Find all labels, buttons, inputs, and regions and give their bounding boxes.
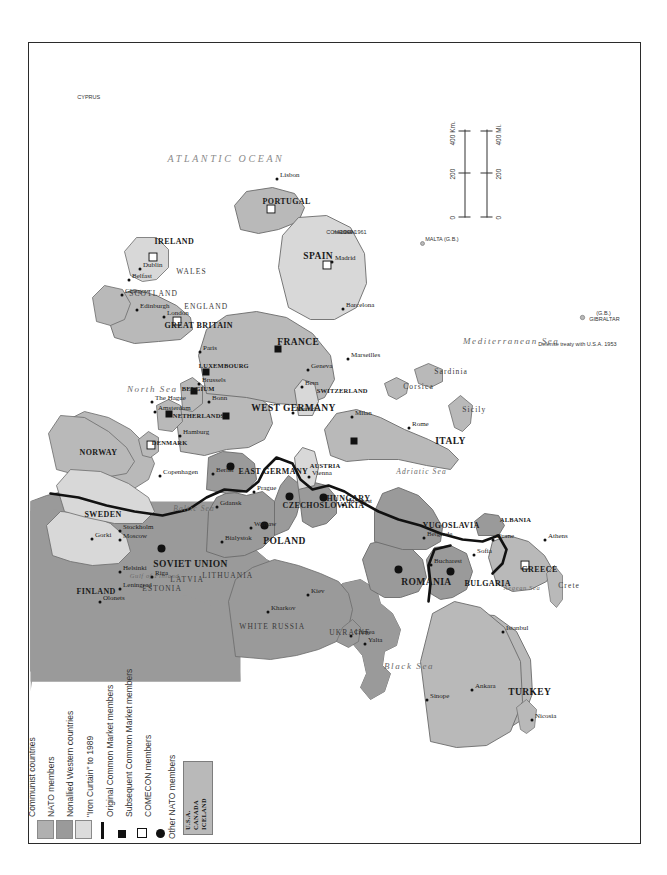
city-dot-gdansk — [216, 506, 219, 509]
city-label-athens: Athens — [548, 533, 568, 540]
country-label-great-britain: GREAT BRITAIN — [165, 322, 234, 330]
city-dot-bucharest — [430, 564, 433, 567]
country-label-albania: ALBANIA — [500, 517, 531, 524]
sea-label-sicily: Sicily — [462, 406, 486, 414]
city-dot-yalta — [364, 643, 367, 646]
city-label-glasgow: Glasgow — [125, 288, 150, 295]
city-label-berlin: Berlin — [216, 467, 234, 474]
sea-label-crete: Crete — [558, 582, 580, 590]
city-dot-dublin — [139, 268, 142, 271]
comecon-dot-romania — [395, 566, 403, 574]
city-label-warsaw: Warsaw — [254, 521, 276, 528]
city-label-nicosia: Nicosia — [535, 713, 556, 720]
country-label-lithuania: LITHUANIA — [202, 572, 253, 580]
city-label-leningrad: Leningrad — [123, 582, 152, 589]
city-label-sofia: Sofia — [477, 548, 492, 555]
city-dot-edinburgh — [136, 309, 139, 312]
annotation-1949-1961: 1949-1961 — [340, 230, 366, 236]
annotation-gibraltar: GIBRALTAR — [589, 317, 619, 323]
scale-tick-km-200: 200 — [449, 169, 456, 180]
scale-label-mi: 400 Mi. — [495, 124, 502, 145]
city-label-the-hague: The Hague — [155, 395, 186, 402]
city-label-crimea: Crimea — [354, 629, 375, 636]
country-label-france: FRANCE — [277, 338, 319, 348]
city-label-olonets: Olonets — [103, 595, 125, 602]
legend-label-comecon: COMECON members — [143, 735, 153, 817]
legend-label-communist: Communist countries — [28, 737, 37, 817]
legend-label-nato: NATO members — [46, 756, 56, 817]
city-label-london: London — [167, 310, 189, 317]
city-label-bialystok: Bialystok — [225, 535, 252, 542]
city-label-edinburgh: Edinburgh — [140, 303, 169, 310]
scale-label-km: 400 Km. — [449, 121, 456, 145]
legend-label-subsequent-common-market: Subsequent Common Market members — [124, 669, 134, 817]
city-label-copenhagen: Copenhagen — [163, 469, 198, 476]
city-label-istanbul: Istanbul — [506, 625, 529, 632]
map-frame: 0 200 400 Km. 0 200 400 Mi. ATLANTIC OCE… — [28, 42, 641, 844]
city-dot-prague — [253, 491, 256, 494]
annotation-cyprus: CYPRUS — [77, 95, 100, 101]
city-label-barcelona: Barcelona — [346, 302, 374, 309]
city-label-amsterdam: Amsterdam — [158, 405, 191, 412]
sea-label-corsica: Corsica — [403, 383, 434, 391]
country-label-east-germany: EAST GERMANY — [239, 468, 309, 476]
country-label-norway: NORWAY — [80, 449, 118, 457]
city-label-kiev: Kiev — [311, 588, 325, 595]
city-dot-paris — [199, 351, 202, 354]
scale-tick-mi-0: 0 — [495, 216, 502, 220]
sea-label-baltic-sea: Baltic Sea — [173, 505, 215, 513]
map-page: 0 200 400 Km. 0 200 400 Mi. ATLANTIC OCE… — [0, 0, 667, 875]
city-label-hamburg: Hamburg — [183, 429, 209, 436]
country-label-spain: SPAIN — [303, 252, 333, 262]
city-dot-copenhagen — [159, 475, 162, 478]
sea-label-north-sea: North Sea — [127, 385, 178, 394]
city-dot-munich — [292, 412, 295, 415]
legend-open-square-icon — [137, 828, 147, 838]
city-dot-geneva — [307, 369, 310, 372]
city-dot-helsinki — [119, 571, 122, 574]
city-dot-kharkov — [267, 611, 270, 614]
city-dot-bonn — [208, 401, 211, 404]
sea-label-atlantic-ocean: ATLANTIC OCEAN — [168, 154, 285, 164]
city-label-tirane: Tirane — [496, 533, 514, 540]
comecon-dot-soviet-union — [158, 545, 166, 553]
city-dot-warsaw — [250, 527, 253, 530]
common-market-square-italy — [351, 438, 358, 445]
legend-swatch-communist — [37, 820, 54, 839]
legend-filled-square-icon — [118, 830, 126, 838]
city-dot-leningrad — [119, 588, 122, 591]
legend-bar-iron-curtain — [101, 822, 104, 839]
country-label-wales: WALES — [176, 268, 207, 276]
other-nato-member-iceland: ICELAND — [200, 798, 207, 830]
city-dot-the-hague — [151, 401, 154, 404]
country-label-luxembourg: LUXEMBOURG — [199, 363, 249, 370]
country-label-sweden: SWEDEN — [85, 511, 122, 519]
city-label-ankara: Ankara — [475, 683, 496, 690]
country-label-switzerland: SWITZERLAND — [317, 388, 368, 395]
comecon-dot-bulgaria — [447, 568, 455, 576]
city-label-belgrade: Belgrade — [427, 531, 452, 538]
city-label-belfast: Belfast — [132, 273, 152, 280]
city-dot-berlin — [212, 473, 215, 476]
city-label-rome: Rome — [412, 421, 429, 428]
country-label-portugal: PORTUGAL — [263, 198, 311, 206]
city-label-brussels: Brussels — [202, 377, 226, 384]
country-label-soviet-union: SOVIET UNION — [153, 560, 228, 570]
city-label-madrid: Madrid — [335, 255, 356, 262]
city-dot-bialystok — [221, 541, 224, 544]
city-dot-kiev — [307, 594, 310, 597]
city-dot-barcelona — [342, 308, 345, 311]
country-label-romania: ROMANIA — [401, 578, 451, 588]
city-dot-belgrade — [423, 537, 426, 540]
legend-swatch-nato — [56, 820, 73, 839]
country-label-turkey: TURKEY — [508, 688, 551, 698]
city-dot-marseilles — [347, 358, 350, 361]
country-label-yugoslavia: YUGOSLAVIA — [423, 522, 480, 530]
country-label-white-russia: WHITE RUSSIA — [239, 623, 305, 631]
city-label-sinope: Sinope — [430, 693, 449, 700]
city-label-paris: Paris — [203, 345, 217, 352]
city-dot-stockholm — [119, 530, 122, 533]
other-nato-member-usa: U.S.A. — [184, 810, 191, 830]
country-label-netherlands: NETHERLANDS — [173, 413, 225, 420]
city-dot-lisbon — [276, 178, 279, 181]
